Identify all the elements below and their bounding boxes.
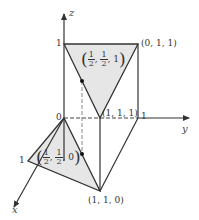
origin-label: 0 (56, 113, 62, 122)
point-110-label: (1, 1, 0) (88, 196, 124, 205)
midpoint-top-dot (80, 79, 84, 83)
z-axis-label: z (69, 8, 74, 18)
point-111-label: (1, 1, 1) (102, 109, 138, 118)
z-tick-1: 1 (56, 39, 62, 48)
y-tick-1: 1 (141, 112, 147, 121)
y-axis-label: y (182, 124, 188, 134)
diagram-canvas (0, 0, 199, 220)
edge-y1-110 (100, 118, 138, 191)
midpoint-top-label: ( 12 , 12 , 1 ) (81, 51, 126, 68)
x-tick-1: 1 (19, 156, 25, 165)
point-011-label: (0, 1, 1) (141, 39, 177, 48)
x-axis-label: x (12, 205, 18, 215)
midpoint-bottom-label: ( 12 , 12 , 0 ) (36, 149, 81, 166)
